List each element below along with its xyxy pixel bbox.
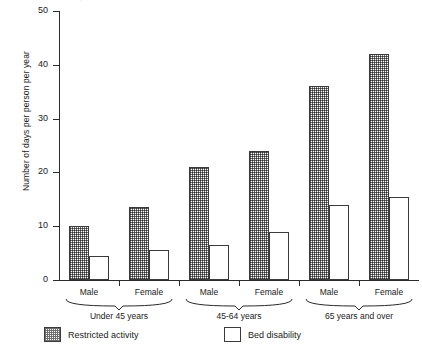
x-sub-label: Female [239, 287, 299, 297]
bar-restricted-activity [369, 54, 389, 280]
y-tick-label: 40 [22, 59, 48, 69]
x-sub-label: Male [179, 287, 239, 297]
x-sub-label: Female [119, 287, 179, 297]
chart-container: Source, national Center for Health Stati… [0, 0, 422, 353]
x-separator-tick [239, 280, 240, 286]
group-brace [305, 299, 413, 311]
x-sub-label: Male [299, 287, 359, 297]
y-tick-label: 10 [22, 220, 48, 230]
x-separator-tick [179, 280, 180, 286]
bar-restricted-activity [309, 86, 329, 280]
chart-legend: Restricted activityBed disability [44, 327, 404, 347]
legend-item: Restricted activity [44, 327, 139, 342]
legend-label: Bed disability [248, 330, 301, 340]
bar-restricted-activity [249, 151, 269, 280]
cropped-source-text: Source, national Center for Health Stati… [56, 0, 306, 2]
bar-restricted-activity [69, 226, 89, 280]
bar-bed-disability [209, 245, 229, 280]
y-tick-label: 50 [22, 5, 48, 15]
group-brace [185, 299, 293, 311]
x-sub-label: Male [59, 287, 119, 297]
bar-bed-disability [389, 197, 409, 280]
bar-bed-disability [149, 250, 169, 280]
group-label: Under 45 years [65, 311, 173, 321]
x-separator-tick [119, 280, 120, 286]
group-label: 45-64 years [185, 311, 293, 321]
bar-bed-disability [269, 232, 289, 280]
y-tick-label: 20 [22, 166, 48, 176]
x-separator-tick [299, 280, 300, 286]
bar-bed-disability [329, 205, 349, 280]
legend-item: Bed disability [224, 327, 301, 342]
bar-restricted-activity [129, 207, 149, 280]
x-separator-tick [359, 280, 360, 286]
bar-bed-disability [89, 256, 109, 280]
legend-label: Restricted activity [68, 330, 139, 340]
y-tick-mark [53, 280, 59, 281]
legend-swatch-bed-disability [224, 327, 241, 342]
y-tick-label: 30 [22, 113, 48, 123]
plot-area [59, 11, 419, 280]
group-brace [65, 299, 173, 311]
legend-swatch-restricted-activity [44, 327, 61, 342]
bar-restricted-activity [189, 167, 209, 280]
x-sub-label: Female [359, 287, 419, 297]
y-tick-label: 0 [22, 274, 48, 284]
group-label: 65 years and over [305, 311, 413, 321]
